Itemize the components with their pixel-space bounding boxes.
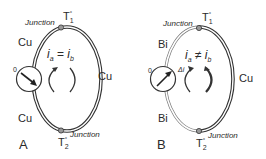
galvanometer-b [151, 67, 176, 92]
junction-label-bottom-a: Junction [70, 131, 100, 139]
meter-delta-b: Δi [178, 66, 184, 73]
current-arrows-b [185, 66, 212, 92]
wire-label-left-bottom-b: Bi [158, 113, 168, 124]
temp-label-bottom-a: T2° [58, 136, 67, 150]
temp-label-top-a: T1° [63, 10, 72, 24]
current-relation-a: ia = ib [47, 48, 74, 62]
wire-label-right-a: Cu [98, 71, 112, 82]
junction-bottom-a [58, 128, 63, 133]
panel-label-b: B [157, 138, 166, 151]
wire-label-right-b: Cu [239, 73, 253, 84]
wire-label-left-bottom-a: Cu [18, 113, 32, 124]
current-relation-b: ia ≠ ib [185, 49, 211, 63]
junction-label-top-a: Junction [25, 19, 55, 27]
wire-label-left-top-a: Cu [18, 37, 32, 48]
junction-top-b [196, 25, 201, 30]
junction-label-bottom-b: Junction [208, 132, 238, 140]
wire-label-left-top-b: Bi [158, 39, 168, 50]
junction-bottom-b [196, 128, 201, 133]
junction-label-top-b: Junction [163, 20, 193, 28]
current-arrows-a [49, 67, 75, 92]
meter-zero-a: 0 [13, 66, 17, 73]
temp-label-top-b: T1° [202, 11, 211, 25]
galvanometer-a [17, 67, 42, 92]
panel-label-a: A [19, 138, 28, 151]
temp-label-bottom-b: T2° [196, 137, 205, 151]
meter-zero-b: 0 [148, 67, 152, 74]
junction-top-a [58, 25, 63, 30]
